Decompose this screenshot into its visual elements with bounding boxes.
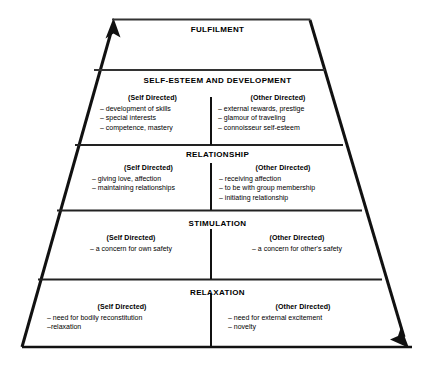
column-self-directed-relaxation: (Self Directed) – need for bodily recons… (47, 302, 197, 332)
tier-title-fulfilment: FULFILMENT (0, 25, 435, 35)
list-item: – external rewards, prestige (218, 104, 338, 114)
column-other-directed-self-esteem: (Other Directed) – external rewards, pre… (218, 93, 338, 132)
list-item: –relaxation (47, 322, 197, 332)
list-item: – need for bodily reconstitution (47, 313, 197, 323)
column-self-directed-stimulation: (Self Directed) – a concern for own safe… (66, 233, 196, 253)
column-heading-other-directed: (Other Directed) (218, 93, 338, 103)
list-item: – special interests (100, 113, 205, 123)
column-heading-other-directed: (Other Directed) (219, 163, 347, 173)
column-heading-other-directed: (Other Directed) (232, 233, 362, 243)
list-item: – competence, mastery (100, 123, 205, 133)
list-item: – initiating relationship (219, 193, 347, 203)
pyramid-diagram: FULFILMENT SELF-ESTEEM AND DEVELOPMENT (… (0, 0, 435, 368)
column-self-directed-relationship: (Self Directed) – giving love, affection… (92, 163, 205, 193)
list-item: – development of skills (100, 104, 205, 114)
list-item: – connoisseur self-esteem (218, 123, 338, 133)
column-heading-self-directed: (Self Directed) (66, 233, 196, 243)
list-item: – need for external excitement (228, 313, 378, 323)
list-item: – glamour of traveling (218, 113, 338, 123)
list-item: – a concern for other's safety (232, 244, 362, 254)
item-list-other-directed-relaxation: – need for external excitement – novelty (228, 313, 378, 332)
list-item: – to be with group membership (219, 183, 347, 193)
list-item: – giving love, affection (92, 174, 205, 184)
item-list-self-directed-self-esteem: – development of skills – special intere… (100, 104, 205, 133)
column-other-directed-relaxation: (Other Directed) – need for external exc… (228, 302, 378, 332)
column-heading-self-directed: (Self Directed) (100, 93, 205, 103)
list-item: – a concern for own safety (66, 244, 196, 254)
tier-title-relationship: RELATIONSHIP (0, 150, 435, 160)
tier-title-relaxation: RELAXATION (0, 288, 435, 298)
item-list-self-directed-relationship: – giving love, affection – maintaining r… (92, 174, 205, 193)
item-list-other-directed-relationship: – receiving affection – to be with group… (219, 174, 347, 203)
tier-title-self-esteem-and-development: SELF-ESTEEM AND DEVELOPMENT (0, 76, 435, 86)
column-self-directed-self-esteem: (Self Directed) – development of skills … (100, 93, 205, 132)
item-list-self-directed-stimulation: – a concern for own safety (66, 244, 196, 254)
column-other-directed-stimulation: (Other Directed) – a concern for other's… (232, 233, 362, 253)
column-heading-self-directed: (Self Directed) (47, 302, 197, 312)
list-item: – receiving affection (219, 174, 347, 184)
list-item: – novelty (228, 322, 378, 332)
item-list-other-directed-stimulation: – a concern for other's safety (232, 244, 362, 254)
column-other-directed-relationship: (Other Directed) – receiving affection –… (219, 163, 347, 202)
tier-title-stimulation: STIMULATION (0, 219, 435, 229)
item-list-self-directed-relaxation: – need for bodily reconstitution –relaxa… (47, 313, 197, 332)
list-item: – maintaining relationships (92, 183, 205, 193)
column-heading-other-directed: (Other Directed) (228, 302, 378, 312)
item-list-other-directed-self-esteem: – external rewards, prestige – glamour o… (218, 104, 338, 133)
column-heading-self-directed: (Self Directed) (92, 163, 205, 173)
